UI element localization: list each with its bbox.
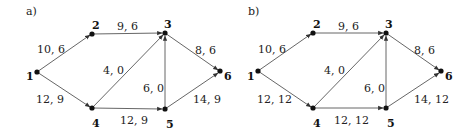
panel-a-label: a) [26, 5, 37, 18]
node-label-4: 4 [92, 117, 100, 130]
edge-label-5-6: 14, 12 [414, 93, 449, 106]
node-3 [383, 30, 388, 35]
node-1 [34, 69, 39, 74]
edge-label-1-4: 12, 9 [36, 93, 64, 106]
node-2 [89, 31, 94, 36]
node-label-5: 5 [387, 117, 395, 130]
panel-b-label: b) [248, 5, 259, 18]
edge-label-5-3: 6, 0 [143, 82, 164, 95]
node-6 [438, 68, 443, 73]
edge-label-5-6: 14, 9 [193, 93, 221, 106]
edge-label-4-3: 4, 0 [324, 64, 345, 77]
edge-label-1-2: 10, 6 [37, 43, 65, 56]
node-6 [217, 68, 222, 73]
edge-label-4-5: 12, 9 [120, 114, 148, 127]
edge-4-5 [92, 108, 162, 109]
edge-2-3 [92, 33, 162, 34]
node-label-2: 2 [313, 18, 321, 31]
node-label-6: 6 [224, 70, 232, 83]
node-label-6: 6 [445, 70, 453, 83]
edge-label-3-6: 8, 6 [414, 44, 435, 57]
edge-label-4-5: 12, 12 [334, 114, 369, 127]
node-3 [162, 30, 167, 35]
node-4 [310, 105, 315, 110]
node-label-2: 2 [92, 19, 100, 32]
node-2 [310, 30, 315, 35]
edge-label-3-6: 8, 6 [195, 44, 216, 57]
edge-label-1-4: 12, 12 [257, 93, 292, 106]
node-label-3: 3 [385, 18, 393, 31]
edge-label-1-2: 10, 6 [258, 43, 286, 56]
node-5 [162, 106, 167, 111]
edge-label-2-3: 9, 6 [338, 20, 359, 33]
node-label-1: 1 [247, 70, 255, 83]
node-label-4: 4 [313, 117, 321, 130]
node-label-5: 5 [166, 118, 174, 131]
edge-label-2-3: 9, 6 [117, 20, 138, 33]
panel-a: a) 1 2 3 4 5 6 10, 6 9, 6 12, 9 4, 0 6, … [26, 5, 232, 131]
node-5 [383, 105, 388, 110]
edge-label-5-3: 6, 0 [364, 82, 385, 95]
panel-b: b) 1 2 3 4 5 6 10, 6 9, 6 12, 12 4, 0 6,… [247, 5, 453, 130]
flow-network-figure: a) 1 2 3 4 5 6 10, 6 9, 6 12, 9 4, 0 6, … [0, 0, 474, 138]
node-4 [89, 105, 94, 110]
node-1 [255, 68, 260, 73]
node-label-1: 1 [26, 70, 34, 83]
node-label-3: 3 [164, 18, 172, 31]
edge-label-4-3: 4, 0 [103, 64, 124, 77]
